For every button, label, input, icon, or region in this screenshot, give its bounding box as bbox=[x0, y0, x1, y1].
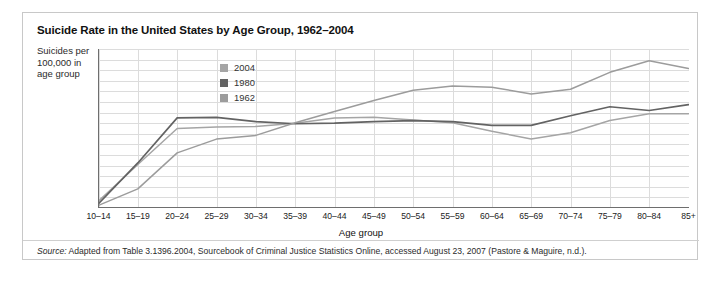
source-divider bbox=[23, 240, 699, 241]
x-tick-label: 65–69 bbox=[519, 211, 543, 221]
chart-title: Suicide Rate in the United States by Age… bbox=[37, 24, 354, 36]
series-line-1962 bbox=[99, 61, 689, 206]
x-tick-label: 40–44 bbox=[323, 211, 347, 221]
legend-label-2004: 2004 bbox=[234, 62, 255, 73]
series-lines bbox=[99, 61, 689, 206]
x-tick-label: 35–39 bbox=[283, 211, 307, 221]
x-tick-label: 50–54 bbox=[401, 211, 425, 221]
x-tick-label: 85+ bbox=[681, 211, 696, 221]
y-axis-title: Suicides per 100,000 in age group bbox=[37, 45, 99, 80]
x-tick-label: 10–14 bbox=[87, 211, 111, 221]
legend-item-1980: 1980 bbox=[220, 76, 290, 89]
figure-panel: Suicide Rate in the United States by Age… bbox=[22, 12, 698, 260]
legend-item-2004: 2004 bbox=[220, 61, 290, 74]
source-label: Source: bbox=[37, 246, 67, 256]
legend-swatch-1980 bbox=[220, 79, 228, 87]
legend-label-1980: 1980 bbox=[234, 77, 255, 88]
x-tick-label: 55–59 bbox=[441, 211, 465, 221]
x-tick-label: 60–64 bbox=[480, 211, 504, 221]
x-axis-tick-labels: 10–1415–1920–2425–2930–3435–3940–4445–49… bbox=[98, 211, 689, 225]
source-note: Source: Adapted from Table 3.1396.2004, … bbox=[37, 246, 587, 256]
x-tick-label: 20–24 bbox=[165, 211, 189, 221]
x-tick-label: 30–34 bbox=[244, 211, 268, 221]
legend-swatch-1962 bbox=[220, 94, 228, 102]
x-tick-label: 25–29 bbox=[205, 211, 229, 221]
line-chart-svg: 024681012141618202224262830 bbox=[98, 49, 689, 208]
legend-label-1962: 1962 bbox=[234, 92, 255, 103]
legend-item-1962: 1962 bbox=[220, 91, 290, 104]
source-text: Adapted from Table 3.1396.2004, Sourcebo… bbox=[67, 246, 587, 256]
x-tick-label: 15–19 bbox=[126, 211, 150, 221]
legend-swatch-2004 bbox=[220, 64, 228, 72]
x-axis-title: Age group bbox=[23, 227, 699, 238]
x-tick-label: 80–84 bbox=[637, 211, 661, 221]
plot-area: 024681012141618202224262830 bbox=[98, 49, 689, 208]
x-tick-label: 45–49 bbox=[362, 211, 386, 221]
series-line-1980 bbox=[99, 105, 689, 204]
x-tick-label: 70–74 bbox=[559, 211, 583, 221]
chart-legend: 2004 1980 1962 bbox=[220, 61, 290, 106]
x-tick-label: 75–79 bbox=[598, 211, 622, 221]
